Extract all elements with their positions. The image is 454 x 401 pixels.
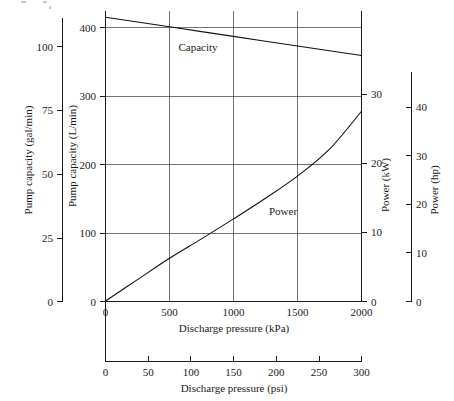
tick-label-kw-30: 30 <box>371 88 383 100</box>
tick-label-psi-50: 50 <box>143 366 155 378</box>
axis-title-power-hp: Power (hp) <box>428 165 441 215</box>
axis-title-pump-capacity-lmin: Pump capacity (L/min) <box>66 105 79 207</box>
tick-label-kpa-1500: 1500 <box>287 306 310 318</box>
tick-label-hp-10: 10 <box>416 247 428 259</box>
tick-label-galmin-100: 100 <box>37 41 54 53</box>
axis-title-power-kw: Power (kW) <box>379 158 392 212</box>
tick-label-kpa-500: 500 <box>161 306 178 318</box>
axis-left-inner-labels: 400 300 200 100 0 <box>80 22 97 308</box>
tick-label-psi-150: 150 <box>225 366 242 378</box>
tick-label-galmin-75: 75 <box>42 104 54 116</box>
tick-label-lmin-200: 200 <box>80 159 97 171</box>
tick-label-kw-10: 10 <box>371 226 383 238</box>
axis-title-discharge-pressure-kpa: Discharge pressure (kPa) <box>179 322 290 335</box>
axis-right-outer-labels: 40 30 20 10 0 <box>416 101 428 308</box>
tick-label-psi-0: 0 <box>103 366 109 378</box>
curve-label-power: Power <box>269 205 297 217</box>
vertical-gridlines <box>170 11 298 301</box>
tick-label-lmin-0: 0 <box>91 296 97 308</box>
tick-label-hp-0: 0 <box>416 296 422 308</box>
curve-label-capacity: Capacity <box>178 41 218 53</box>
tick-label-lmin-300: 300 <box>80 90 97 102</box>
tick-label-psi-250: 250 <box>311 366 328 378</box>
axis-left-inner-ticks <box>100 28 106 302</box>
axis-bottom-inner-labels: 0 500 1000 1500 2000 <box>103 306 373 318</box>
tick-label-psi-200: 200 <box>268 366 285 378</box>
tick-label-psi-100: 100 <box>183 366 200 378</box>
tick-label-hp-20: 20 <box>416 198 428 210</box>
axis-title-pump-capacity-galmin: Pump capacity (gal/min) <box>22 105 35 214</box>
tick-label-galmin-25: 25 <box>42 232 54 244</box>
tick-label-galmin-50: 50 <box>42 168 54 180</box>
axis-right-inner-ticks <box>362 94 368 302</box>
tick-label-kpa-1000: 1000 <box>223 306 246 318</box>
tick-label-lmin-100: 100 <box>80 227 97 239</box>
tick-label-lmin-400: 400 <box>80 22 97 34</box>
axis-right-outer <box>406 72 412 302</box>
axis-bottom-outer-labels: 0 50 100 150 200 250 300 <box>103 366 371 378</box>
tick-label-hp-30: 30 <box>416 150 428 162</box>
axis-left-outer-labels: 100 75 50 25 0 <box>37 41 54 308</box>
axis-title-discharge-pressure-psi: Discharge pressure (psi) <box>181 382 288 395</box>
tick-label-hp-40: 40 <box>416 101 428 113</box>
figure-root: 400 300 200 100 0 Pump capacity (L/min) … <box>0 0 454 401</box>
axis-left-outer <box>57 18 63 302</box>
tick-label-psi-300: 300 <box>353 366 370 378</box>
pump-performance-chart: 400 300 200 100 0 Pump capacity (L/min) … <box>0 0 454 401</box>
tick-label-galmin-0: 0 <box>48 296 54 308</box>
tick-label-kpa-2000: 2000 <box>351 306 374 318</box>
scan-artifacts <box>21 1 51 9</box>
